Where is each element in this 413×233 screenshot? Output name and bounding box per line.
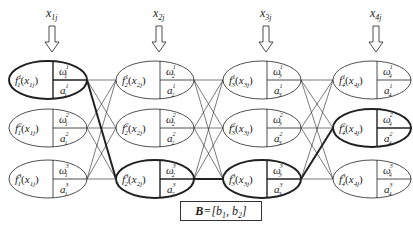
node-3-3: f33(x3j)ω33a33 [223,160,301,198]
down-arrow-icon [259,26,273,52]
node-1-3: f31(x1j)ω31a31 [9,160,87,198]
node-3-1: f13(x3j)ω13a13 [223,61,301,99]
down-arrow-icon [369,26,383,52]
node-1-2: f21(x1j)ω21a21 [9,109,87,147]
input-label: x4j [369,6,382,22]
input-2: x2j [152,6,166,52]
node-4-1: f14(x4j)ω14a14 [333,61,411,99]
input-label: x1j [45,6,58,22]
node-3-2: f23(x3j)ω23a23 [223,109,301,147]
input-label: x2j [152,6,165,22]
multistage-decision-diagram: x1jx2jx3jx4jf11(x1j)ω11a11f21(x1j)ω21a21… [0,0,413,233]
node-1-1: f11(x1j)ω11a11 [9,61,87,99]
input-1: x1j [45,6,59,52]
down-arrow-icon [45,26,59,52]
node-2-2: f22(x2j)ω22a22 [116,109,194,147]
down-arrow-icon [152,26,166,52]
vector-b-label: B=[b1, b2] [180,201,262,221]
input-4: x4j [369,6,383,52]
input-3: x3j [259,6,273,52]
input-label: x3j [259,6,272,22]
node-2-3: f32(x2j)ω32a32 [116,160,194,198]
node-2-1: f12(x2j)ω12a12 [116,61,194,99]
node-4-2: f24(x4j)ω24a24 [333,109,411,147]
node-4-3: f34(x4j)ω34a34 [333,160,411,198]
